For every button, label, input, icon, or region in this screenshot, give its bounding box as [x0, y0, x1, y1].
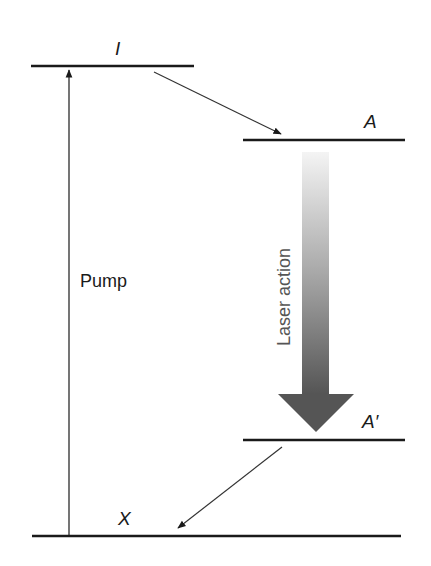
decay-arrow-a-prime-to-x: [178, 447, 282, 528]
level-a-prime-label: A′: [362, 411, 378, 433]
level-a-label: A: [364, 111, 377, 133]
level-x-label: X: [118, 508, 131, 530]
pump-label: Pump: [80, 271, 127, 292]
decay-arrow-i-to-a: [154, 72, 281, 134]
laser-action-label: Laser action: [274, 248, 295, 346]
level-i-label: I: [115, 38, 120, 60]
energy-level-diagram: [0, 0, 431, 566]
